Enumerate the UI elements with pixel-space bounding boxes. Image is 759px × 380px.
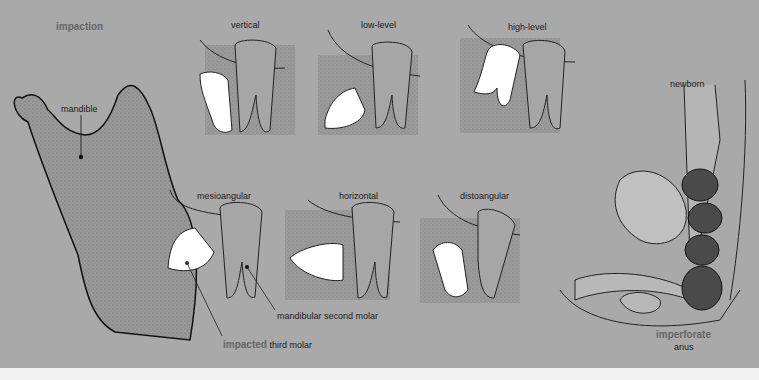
- bottom-margin: [0, 368, 759, 380]
- section-title: impaction: [56, 21, 103, 32]
- imperforate-label: imperforate: [656, 329, 711, 340]
- illustration: [0, 0, 759, 368]
- label-horizontal: horizontal: [339, 191, 378, 201]
- mandible-label: mandible: [61, 104, 98, 114]
- panel-horizontal: [285, 200, 400, 300]
- label-high-level: high-level: [508, 22, 547, 32]
- panel-distoangular: [420, 195, 520, 303]
- label-low-level: low-level: [361, 20, 396, 30]
- panel-vertical: [200, 40, 295, 135]
- label-mesioangular: mesioangular: [197, 191, 251, 201]
- panel-high-level: [460, 25, 575, 133]
- impacted-highlight: impacted: [223, 339, 267, 350]
- panel-low-level: [318, 30, 420, 135]
- newborn-anatomy: [560, 80, 746, 326]
- third-molar-text: third molar: [269, 340, 312, 350]
- mandible-shape: [14, 86, 196, 340]
- figure-canvas: impaction mandible vertical low-level hi…: [0, 0, 759, 368]
- impacted-third-molar-label: impacted third molar: [223, 339, 312, 350]
- label-distoangular: distoangular: [460, 191, 509, 201]
- label-vertical: vertical: [231, 20, 260, 30]
- anus-label: anus: [674, 342, 694, 352]
- second-molar-label: mandibular second molar: [277, 311, 378, 321]
- newborn-title: newborn: [670, 79, 705, 89]
